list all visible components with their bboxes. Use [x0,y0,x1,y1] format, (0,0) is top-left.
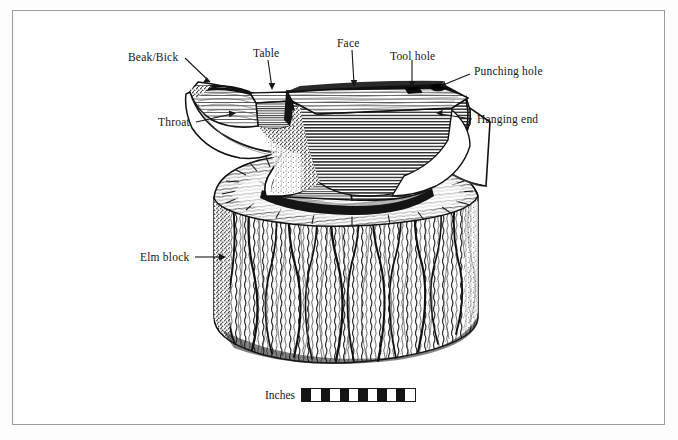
scale-segment [377,389,386,401]
label-tool-hole: Tool hole [390,50,435,62]
label-face: Face [337,37,360,49]
figure-canvas: Beak/Bick Table Face Tool hole Punching … [0,0,678,440]
scale-segment [368,389,377,401]
scale-segment [387,389,396,401]
scale-segment [340,389,349,401]
scale-bar-segments [301,388,416,402]
label-elm-block: Elm block [140,251,189,263]
scale-segment [330,389,339,401]
figure-frame [12,10,665,425]
scale-segment [405,389,414,401]
scale-segment [321,389,330,401]
label-throat: Throat [158,116,190,128]
label-table: Table [253,47,279,59]
scale-segment [302,389,311,401]
label-hanging-end: Hanging end [477,113,538,125]
scale-segment [349,389,358,401]
scale-segment [396,389,405,401]
scale-unit-label: Inches [265,389,295,401]
scale-segment [358,389,367,401]
scale-segment [311,389,320,401]
label-punching-hole: Punching hole [474,65,543,77]
scale-bar: Inches [265,388,416,402]
label-beak-bick: Beak/Bick [128,51,178,63]
